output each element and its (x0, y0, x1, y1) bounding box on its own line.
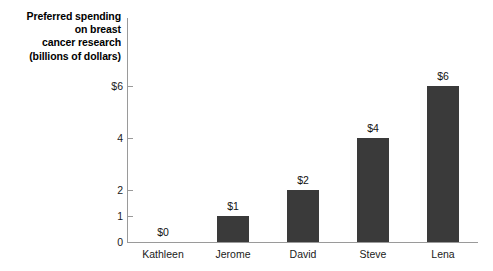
bar-david[interactable] (287, 190, 319, 242)
bar-jerome[interactable] (217, 216, 249, 242)
y-tick-label-text: 2 (89, 185, 123, 196)
y-tick-label: 1 (87, 211, 123, 222)
bar-group-david: $2 (268, 18, 338, 242)
bar-chart: Preferred spending on breast cancer rese… (0, 0, 493, 271)
y-tick-mark-0 (128, 242, 133, 243)
y-tick-label-text: $6 (89, 81, 123, 92)
x-axis-label-david: David (268, 248, 338, 260)
bar-value-label-david: $2 (297, 175, 309, 186)
x-axis-line (127, 242, 478, 243)
y-tick-label-text: 0 (89, 237, 123, 248)
bar-value-label-steve: $4 (367, 123, 379, 134)
chart-title: Preferred spending on breast cancer rese… (8, 10, 121, 63)
x-axis-label-lena: Lena (408, 248, 478, 260)
bar-group-jerome: $1 (198, 18, 268, 242)
y-tick-label: $6 (87, 81, 123, 92)
x-axis-label-jerome: Jerome (198, 248, 268, 260)
x-axis-label-kathleen: Kathleen (128, 248, 198, 260)
chart-title-line-4: (billions of dollars) (8, 50, 121, 63)
bar-lena[interactable] (427, 86, 459, 242)
bar-value-label-jerome: $1 (227, 201, 239, 212)
y-tick-label-text: 4 (89, 133, 123, 144)
bar-value-label-kathleen: $0 (157, 227, 169, 238)
chart-title-line-2: on breast (8, 23, 121, 36)
bar-value-label-lena: $6 (437, 71, 449, 82)
y-tick-label: 4 (87, 133, 123, 144)
bar-group-kathleen: $0 (128, 18, 198, 242)
chart-title-line-1: Preferred spending (8, 10, 121, 23)
chart-title-line-3: cancer research (8, 36, 121, 49)
bar-group-lena: $6 (408, 18, 478, 242)
x-axis-label-steve: Steve (338, 248, 408, 260)
y-tick-label: 0 (87, 237, 123, 248)
bar-steve[interactable] (357, 138, 389, 242)
bar-group-steve: $4 (338, 18, 408, 242)
plot-area: $0$1$2$4$6 (127, 18, 478, 242)
y-tick-label-text: 1 (89, 211, 123, 222)
y-tick-label: 2 (87, 185, 123, 196)
